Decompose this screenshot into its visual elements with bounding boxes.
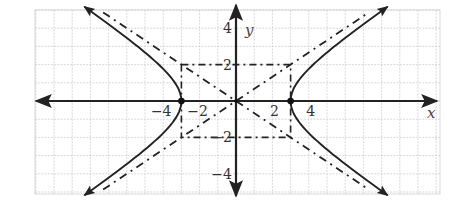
x-axis-label: x [427, 104, 436, 122]
origin-point [234, 99, 238, 103]
y-tick-label: 2 [223, 57, 232, 73]
hyperbola-graph: −4−224 42−2−4 x y [0, 0, 450, 210]
x-tick-label: −4 [151, 103, 172, 119]
y-tick-label: 4 [223, 20, 232, 36]
y-tick-label: −4 [211, 166, 232, 182]
y-tick-label: −2 [211, 129, 232, 145]
x-tick-label: 4 [306, 103, 315, 119]
x-tick-label: −2 [187, 103, 208, 119]
y-axis-label: y [244, 21, 254, 39]
x-tick-label: 2 [270, 103, 279, 119]
vertex-point-left [178, 98, 185, 105]
vertex-point-right [287, 98, 294, 105]
